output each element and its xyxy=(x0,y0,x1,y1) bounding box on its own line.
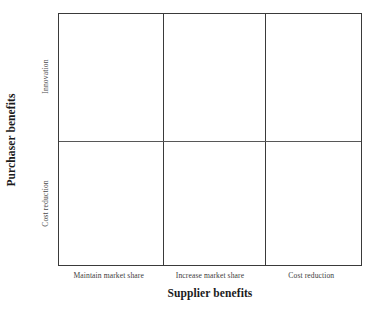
y-tick-innovation-label: Innovation xyxy=(41,59,50,93)
x-tick-maintain-market-share: Maintain market share xyxy=(58,269,159,282)
y-tick-cost-reduction: Cost reduction xyxy=(34,140,56,266)
y-axis-title-label: Purchaser benefits xyxy=(5,93,17,186)
matrix-plot-area xyxy=(58,13,362,266)
y-tick-innovation: Innovation xyxy=(34,13,56,140)
matrix-cell-r2c2[interactable] xyxy=(163,141,265,267)
y-tick-cost-reduction-label: Cost reduction xyxy=(41,180,50,227)
x-axis-title: Supplier benefits xyxy=(58,286,362,300)
x-tick-increase-market-share: Increase market share xyxy=(159,269,260,282)
matrix-cell-r1c3[interactable] xyxy=(265,14,363,141)
matrix-figure: Purchaser benefits Innovation Cost reduc… xyxy=(0,0,380,318)
x-tick-cost-reduction: Cost reduction xyxy=(261,269,362,282)
matrix-cell-r2c3[interactable] xyxy=(265,141,363,267)
matrix-cell-r1c2[interactable] xyxy=(163,14,265,141)
matrix-cell-r1c1[interactable] xyxy=(59,14,163,141)
x-axis-ticks: Maintain market share Increase market sh… xyxy=(58,269,362,282)
matrix-cell-r2c1[interactable] xyxy=(59,141,163,267)
y-axis-title: Purchaser benefits xyxy=(0,13,22,266)
